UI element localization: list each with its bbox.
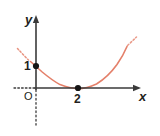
x-axis-label: x (139, 90, 146, 103)
graph-figure: y x 1 2 O (0, 0, 160, 136)
origin-label: O (24, 91, 33, 102)
tick-label-x-2: 2 (74, 93, 81, 105)
y-axis-label: y (25, 13, 32, 26)
curve-right-dashed-tail (128, 37, 137, 46)
point-y-intercept (33, 63, 39, 69)
tick-label-y-1: 1 (24, 60, 31, 72)
parabola-curve (31, 47, 128, 89)
y-axis-arrowhead (33, 15, 39, 23)
point-vertex (75, 85, 81, 91)
